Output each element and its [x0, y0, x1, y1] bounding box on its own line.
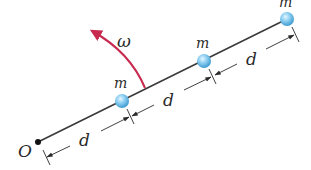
origin-label: O — [18, 141, 32, 161]
rotating-rod-diagram: O ω m m m d d d — [0, 0, 311, 170]
omega-label: ω — [117, 31, 131, 51]
dimension-d-3-label: d — [246, 49, 257, 69]
origin-pivot — [35, 139, 41, 145]
dimension-d-2-label: d — [163, 90, 174, 110]
mass-3: m — [279, 0, 294, 26]
dimension-d-1: d — [47, 117, 129, 157]
dimension-d-2: d — [132, 77, 211, 116]
mass-2: m — [196, 35, 211, 68]
mass-3-label: m — [279, 0, 292, 10]
rod — [38, 19, 287, 142]
mass-2-label: m — [196, 35, 209, 51]
dimension-d-1-label: d — [79, 130, 90, 150]
mass-1-label: m — [114, 75, 127, 91]
dimension-d-3: d — [215, 35, 294, 75]
mass-1: m — [114, 75, 129, 108]
